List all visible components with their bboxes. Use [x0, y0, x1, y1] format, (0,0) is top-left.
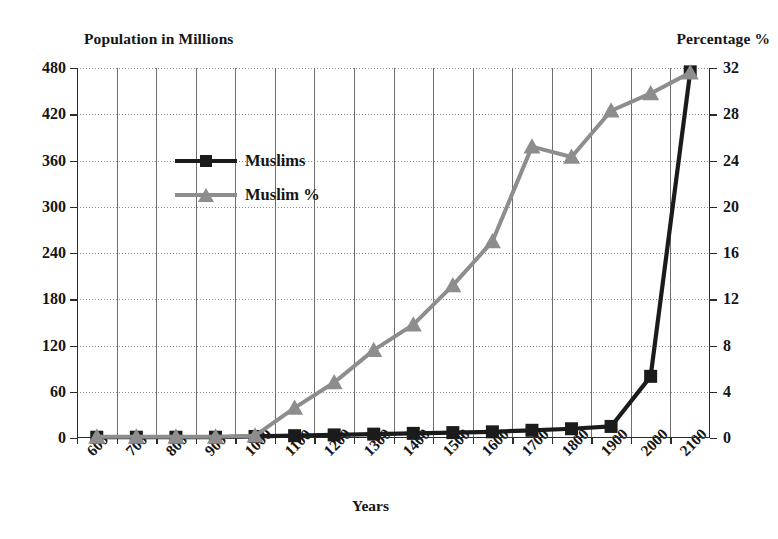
legend-swatch	[175, 151, 237, 171]
data-point-marker-triangle	[365, 342, 382, 357]
x-axis-tick-mark	[314, 438, 315, 444]
x-axis-tick-mark	[354, 438, 355, 444]
y-axis-right-tick-label: 16	[723, 245, 739, 261]
series-line-muslims	[97, 72, 690, 437]
y-axis-left-tick-mark	[70, 392, 77, 393]
series-line-muslim	[97, 73, 690, 437]
right-axis-caption: Percentage %	[677, 30, 770, 48]
legend-triangle-icon	[198, 188, 214, 202]
left-axis-caption: Population in Millions	[84, 30, 234, 48]
x-axis-title: Years	[352, 497, 389, 515]
plot-area: 0601201802403003604204800481216202428326…	[77, 68, 710, 438]
y-axis-right-tick-label: 12	[723, 291, 739, 307]
y-axis-left-tick-label: 120	[42, 338, 66, 354]
y-axis-right-tick-label: 20	[723, 199, 739, 215]
x-axis-tick-mark	[77, 438, 78, 444]
y-axis-right-tick-label: 32	[723, 60, 739, 76]
legend-item-muslim[interactable]: Muslim %	[175, 178, 365, 212]
y-axis-left-tick-label: 180	[42, 291, 66, 307]
y-axis-left-tick-mark	[70, 161, 77, 162]
data-point-marker-square	[565, 422, 578, 435]
legend-label: Muslim %	[245, 185, 320, 205]
y-axis-left-tick-label: 60	[50, 384, 66, 400]
x-axis-tick-mark	[552, 438, 553, 444]
y-axis-right-tick-label: 4	[723, 384, 731, 400]
y-axis-right-tick-mark	[710, 392, 717, 393]
data-point-marker-square	[605, 420, 618, 433]
y-axis-right-tick-label: 8	[723, 338, 731, 354]
y-axis-right-tick-mark	[710, 253, 717, 254]
y-axis-right-tick-mark	[710, 346, 717, 347]
data-point-marker-triangle	[642, 85, 659, 100]
data-point-marker-triangle	[523, 138, 540, 153]
y-axis-right-tick-mark	[710, 299, 717, 300]
y-axis-left-tick-label: 480	[42, 60, 66, 76]
data-point-marker-square	[328, 428, 341, 441]
y-axis-left-tick-mark	[70, 346, 77, 347]
data-point-marker-square	[644, 370, 657, 383]
y-axis-left-tick-label: 420	[42, 106, 66, 122]
x-axis-tick-mark	[512, 438, 513, 444]
chart-legend: MuslimsMuslim %	[175, 144, 365, 212]
y-axis-left-tick-label: 240	[42, 245, 66, 261]
data-point-marker-square	[486, 425, 499, 438]
y-axis-left-tick-mark	[70, 207, 77, 208]
x-axis-tick-mark	[591, 438, 592, 444]
data-point-marker-triangle	[286, 399, 303, 414]
y-axis-right-tick-mark	[710, 114, 717, 115]
x-axis-tick-mark	[631, 438, 632, 444]
x-axis-tick-mark	[670, 438, 671, 444]
y-axis-left-tick-mark	[70, 114, 77, 115]
x-axis-tick-mark	[433, 438, 434, 444]
data-point-marker-square	[367, 428, 380, 441]
y-axis-left-tick-mark	[70, 253, 77, 254]
legend-square-icon	[200, 155, 212, 167]
y-axis-left-tick-label: 0	[58, 430, 66, 446]
y-axis-right-tick-label: 28	[723, 106, 739, 122]
data-point-marker-square	[288, 429, 301, 442]
y-axis-right-tick-mark	[710, 68, 717, 69]
y-axis-left-tick-mark	[70, 68, 77, 69]
chart-container: Population in Millions Percentage % 0601…	[0, 0, 778, 539]
y-axis-left-tick-label: 300	[42, 199, 66, 215]
y-axis-right-tick-label: 24	[723, 153, 739, 169]
series-layer	[77, 68, 710, 438]
data-point-marker-square	[446, 426, 459, 439]
data-point-marker-triangle	[484, 233, 501, 248]
y-axis-right-tick-mark	[710, 161, 717, 162]
y-axis-right-tick-mark	[710, 438, 717, 439]
y-axis-right-tick-mark	[710, 207, 717, 208]
y-axis-left-tick-mark	[70, 299, 77, 300]
legend-item-muslims[interactable]: Muslims	[175, 144, 365, 178]
data-point-marker-square	[407, 427, 420, 440]
y-axis-left-tick-label: 360	[42, 153, 66, 169]
legend-swatch	[175, 185, 237, 205]
data-point-marker-square	[525, 424, 538, 437]
y-axis-left-tick-mark	[70, 438, 77, 439]
y-axis-right-tick-label: 0	[723, 430, 731, 446]
x-axis-tick-mark	[394, 438, 395, 444]
legend-label: Muslims	[245, 151, 306, 171]
x-axis-tick-mark	[473, 438, 474, 444]
x-axis-tick-mark	[275, 438, 276, 444]
